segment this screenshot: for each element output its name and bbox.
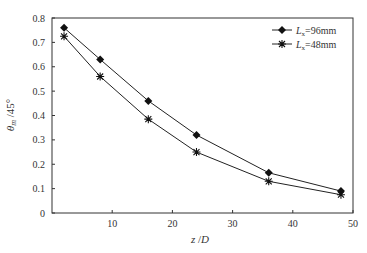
x-tick-label: 20 [167, 218, 177, 229]
y-tick-label: 0 [40, 208, 45, 219]
line-chart: 00.10.20.30.40.50.60.70.81020304050 Lx=9… [0, 0, 367, 253]
y-tick-label: 0.7 [33, 37, 46, 48]
y-tick-label: 0.6 [33, 61, 46, 72]
y-tick-label: 0.5 [33, 86, 46, 97]
x-tick-label: 50 [348, 218, 358, 229]
y-tick-label: 0.3 [33, 134, 46, 145]
asterisk-marker [60, 32, 68, 40]
y-tick-label: 0.2 [33, 159, 46, 170]
diamond-marker [278, 26, 286, 34]
y-tick-label: 0.8 [33, 13, 46, 24]
x-tick-label: 40 [288, 218, 298, 229]
legend-label: Lx=96mm [295, 25, 336, 38]
diamond-marker [265, 169, 273, 177]
diamond-marker [192, 131, 200, 139]
series-lx-48mm [60, 32, 345, 198]
legend: Lx=96mmLx=48mm [272, 25, 336, 52]
asterisk-marker [265, 177, 273, 185]
series-line [64, 36, 341, 194]
x-tick-label: 10 [107, 218, 117, 229]
x-axis-label: z /D [190, 233, 209, 245]
y-tick-label: 0.4 [33, 110, 46, 121]
y-tick-label: 0.1 [33, 183, 46, 194]
asterisk-marker [337, 191, 345, 199]
asterisk-marker [96, 73, 104, 81]
asterisk-marker [144, 115, 152, 123]
y-axis-label: θm /45° [4, 99, 18, 131]
x-tick-label: 30 [228, 218, 238, 229]
legend-label: Lx=48mm [295, 39, 336, 52]
asterisk-marker [192, 148, 200, 156]
series-line [64, 28, 341, 191]
asterisk-marker [278, 40, 286, 48]
